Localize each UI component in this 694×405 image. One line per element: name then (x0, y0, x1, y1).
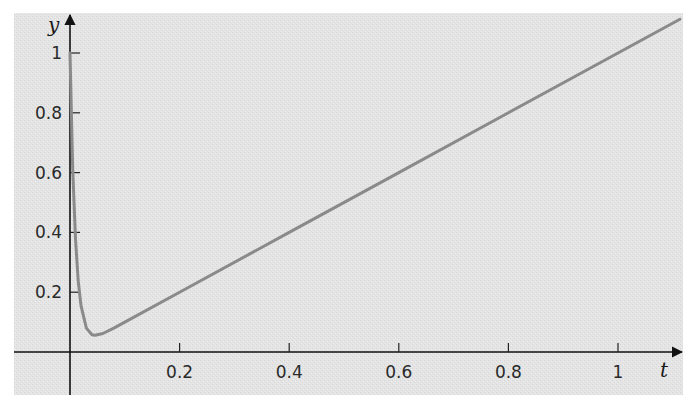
x-tick-label: 1 (613, 362, 624, 382)
plot-background (14, 13, 683, 395)
y-axis-label: y (47, 13, 60, 37)
x-tick-label: 0.8 (495, 362, 522, 382)
x-axis-label: t (660, 358, 669, 382)
y-tick-label: 1 (51, 43, 62, 63)
x-tick-label: 0.6 (385, 362, 412, 382)
y-tick-label: 0.2 (35, 282, 62, 302)
y-tick-label: 0.8 (35, 103, 62, 123)
y-tick-label: 0.4 (35, 222, 62, 242)
y-tick-label: 0.6 (35, 163, 62, 183)
x-tick-label: 0.2 (166, 362, 193, 382)
chart-plot: 0.20.40.60.81 0.20.40.60.81 t y (0, 0, 694, 405)
x-tick-label: 0.4 (276, 362, 303, 382)
